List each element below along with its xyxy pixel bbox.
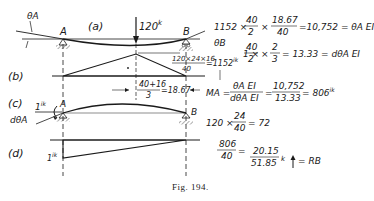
eq5-result: = RB bbox=[298, 156, 321, 166]
support-b-label: B bbox=[183, 26, 190, 37]
eq5-eq: = bbox=[238, 146, 246, 156]
eq1-lead: 1152 × bbox=[214, 22, 247, 32]
eq1-f2-den: 40 bbox=[277, 27, 289, 37]
panel-d-label: (d) bbox=[8, 147, 24, 160]
fig-194-diagram: (a) A B θA θB bbox=[0, 0, 374, 201]
arrow-icon bbox=[30, 21, 32, 32]
panel-c: (c) 1ik A B dθA bbox=[8, 97, 197, 125]
centroid-value: =18.67 bbox=[161, 86, 192, 95]
support-a-label: A bbox=[59, 26, 67, 37]
eq4-result: = 72 bbox=[248, 118, 270, 128]
eq5-unit: k bbox=[281, 155, 286, 163]
eq3-f2-den: 13.33 bbox=[275, 93, 301, 103]
eq1-f1-num: 40 bbox=[246, 15, 258, 25]
eq5-num: 806 bbox=[219, 139, 236, 149]
unit-moment-triangle bbox=[63, 140, 186, 158]
peak-denominator: 40 bbox=[182, 65, 191, 73]
eq3-f2-num: 10,752 bbox=[273, 81, 305, 91]
unit-moment-d-label: 1ik bbox=[47, 151, 58, 163]
panel-a: (a) A B θA θB bbox=[16, 11, 226, 51]
panel-d: (d) 1ik bbox=[8, 140, 200, 163]
panel-b: (b) 120×24×16 40 =1152ik 40+16 3 =18.67 bbox=[8, 44, 239, 100]
eq3-eq: = bbox=[265, 88, 273, 98]
unit-moment-label: 1ik bbox=[35, 100, 46, 112]
eq4-lead: 120 × bbox=[206, 118, 234, 128]
up-arrow-icon bbox=[291, 155, 296, 168]
eq2-f1-num: 40 bbox=[246, 42, 258, 52]
eq2-result: = 13.33 = dθA EI bbox=[282, 49, 360, 59]
eq1-result: =10,752 = θA EI bbox=[299, 22, 374, 32]
eq1-times: × bbox=[261, 22, 269, 32]
panel-a-label: (a) bbox=[88, 20, 103, 33]
eq1-f2-num: 18.67 bbox=[272, 15, 298, 25]
panel-c-label: (c) bbox=[8, 97, 23, 110]
eq2-f2-den: 3 bbox=[272, 54, 278, 64]
eq3-lead: MA = bbox=[206, 88, 230, 98]
support-a-c-label: A bbox=[59, 99, 66, 109]
figure-caption: Fig. 194. bbox=[172, 182, 209, 192]
eq2-f1-den: 2 bbox=[248, 54, 254, 64]
angle-theta-a: θA bbox=[27, 11, 39, 21]
support-b-c-label: B bbox=[191, 107, 197, 117]
equations: 1152 × 40 2 × 18.67 40 =10,752 = θA EI 1… bbox=[206, 15, 374, 168]
eq4-num: 24 bbox=[234, 111, 246, 121]
deflected-beam-c bbox=[63, 104, 186, 113]
eq5-r-den: 51.85 bbox=[251, 158, 277, 168]
deflected-beam bbox=[63, 39, 186, 46]
eq2-f2-num: 2 bbox=[272, 42, 278, 52]
angle-theta-b: θB bbox=[214, 38, 226, 48]
load-value: 120k bbox=[139, 19, 163, 32]
eq5-r-num: 20.15 bbox=[253, 146, 279, 156]
moment-triangle bbox=[63, 54, 186, 76]
eq3-f1-num: θA EI bbox=[233, 81, 256, 91]
arrow-icon bbox=[26, 41, 28, 48]
eq5-den: 40 bbox=[221, 151, 233, 161]
eq4-den: 40 bbox=[234, 123, 246, 133]
panel-b-label: (b) bbox=[8, 70, 24, 83]
eq3-f1-den: dθA EI bbox=[230, 93, 259, 103]
eq3-result: = 806ik bbox=[302, 86, 335, 98]
eq2-times: × bbox=[261, 49, 269, 59]
guide-lines bbox=[63, 44, 186, 176]
eq1-f1-den: 2 bbox=[248, 27, 254, 37]
centroid-denominator: 3 bbox=[146, 91, 151, 100]
angle-d-theta-a: dθA bbox=[10, 115, 27, 125]
